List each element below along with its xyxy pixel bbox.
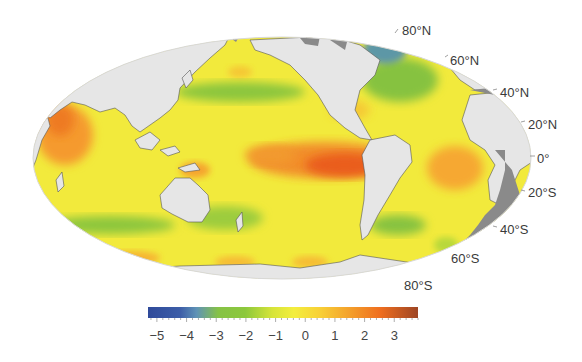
lat-label-60n: 60°N	[450, 54, 479, 67]
lat-label-40s: 40°S	[500, 223, 528, 236]
colorbar-label: 1	[331, 329, 338, 342]
colorbar-label: 0	[302, 329, 309, 342]
lat-label-20n: 20°N	[528, 118, 557, 131]
colorbar-label: −3	[209, 329, 224, 342]
lat-label-80n: 80°N	[402, 24, 431, 37]
colorbar-label: −4	[179, 329, 194, 342]
colorbar-ticks	[151, 318, 418, 322]
colorbar-gradient	[148, 307, 418, 318]
lat-label-40n: 40°N	[500, 86, 529, 99]
colorbar-label: 2	[361, 329, 368, 342]
lat-label-80s: 80°S	[404, 279, 432, 292]
lat-label-60s: 60°S	[451, 252, 479, 265]
world-map	[0, 0, 582, 362]
colorbar-label: −2	[238, 329, 253, 342]
colorbar-label: −5	[149, 329, 164, 342]
colorbar-label: 3	[391, 329, 398, 342]
lat-label-20s: 20°S	[528, 186, 556, 199]
colorbar-label: −1	[268, 329, 283, 342]
lat-label-equator: 0°	[537, 152, 549, 165]
